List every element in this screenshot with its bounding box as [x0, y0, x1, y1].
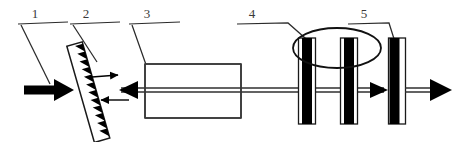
- callout-group-5: 5: [348, 6, 395, 42]
- modulator-plate-right: [341, 38, 358, 124]
- output-beam-arrowhead: [430, 79, 452, 101]
- callout-2-label: 2: [83, 6, 90, 21]
- optical-setup-figure: Schematic of external-cavity laser with …: [0, 0, 457, 142]
- callout-group-1: 1: [18, 6, 68, 84]
- gain-medium-box: [145, 64, 241, 118]
- modulator-plate-left: [299, 38, 316, 124]
- optical-axis-right-arrowhead: [370, 82, 388, 98]
- diffraction-grating: [67, 42, 110, 142]
- callout-5-label: 5: [361, 6, 368, 21]
- callout-1-leader-diagonal: [21, 25, 50, 84]
- optical-axis-left-arrowhead: [119, 81, 138, 99]
- output-beam-arrow: [405, 79, 452, 101]
- optical-setup-svg: Schematic of external-cavity laser with …: [0, 0, 457, 142]
- modulator-assembly: [293, 28, 381, 124]
- callout-4-label: 4: [249, 6, 256, 21]
- grating-substrate: [67, 42, 110, 142]
- callout-2-leader: [70, 22, 120, 24]
- diffracted-order-arrow: [92, 75, 118, 77]
- callout-1-leader: [18, 22, 68, 24]
- output-coupler-plate: [389, 38, 406, 124]
- callout-1-label: 1: [32, 6, 39, 21]
- callout-3-label: 3: [144, 6, 151, 21]
- callout-3-leader: [129, 22, 180, 24]
